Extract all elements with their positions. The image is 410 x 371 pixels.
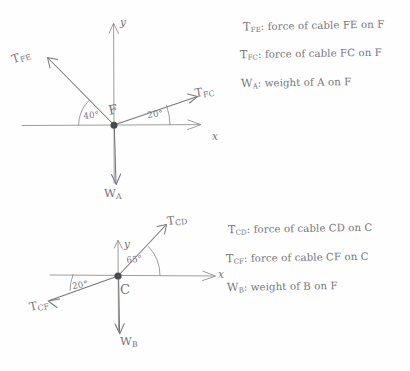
bottom-x-axis [50,271,216,280]
axis-label-y-top: y [120,17,126,28]
bottom-diagram-group [48,225,215,334]
axis-label-y-bottom: y [124,239,130,250]
axis-label-x-top: x [212,131,218,142]
legend-top-line-2: TFC: force of cable FC on F [240,46,382,62]
angle-arc-20-top [167,106,171,125]
angle-label-40: 40° [83,110,100,120]
axis-label-x-bottom: x [218,269,224,280]
angle-label-65: 65° [126,254,143,264]
legend-bottom-line-3: WB: weight of B on F [227,279,338,295]
vector-tfe [48,58,115,126]
vector-label-wa: WA [104,188,122,201]
legend-top-line-3: WA: weight of A on F [241,75,352,91]
origin-point-c [114,272,121,279]
vector-label-wb: WB [120,336,138,349]
legend-bottom-line-2: TCF: force of cable CF on C [226,250,369,266]
worksheet-page: TFE TFC WA F x y 40° 20° TCD TCF WB C x … [0,0,410,371]
vector-wa [112,128,121,185]
vector-label-tcd: TCD [166,213,188,228]
legend-bottom-line-1: TCD: force of cable CD on C [228,221,373,237]
origin-point-f [111,122,118,129]
angle-arc-65 [149,247,161,276]
angle-label-20-top: 20° [147,109,164,120]
origin-label-c: C [120,283,130,296]
